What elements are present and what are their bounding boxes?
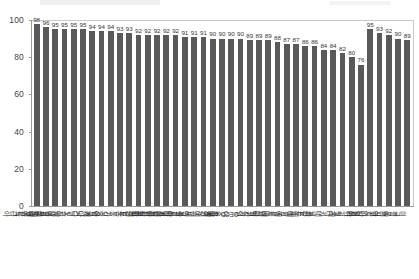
bar: 84 — [321, 50, 327, 206]
bar-value-label: 87 — [293, 37, 300, 43]
bar-column: 89 — [245, 20, 254, 206]
bar: 89 — [265, 40, 271, 206]
bar-value-label: 91 — [200, 30, 207, 36]
bar-value-label: 95 — [61, 22, 68, 28]
bar: 92 — [386, 35, 392, 206]
bar: 84 — [330, 50, 336, 206]
x-axis-label-column: 불가리아 — [116, 208, 125, 278]
bar-value-label: 92 — [144, 28, 151, 34]
x-axis-label-column: 독일 — [246, 208, 255, 278]
x-axis-category-label: OECD 평균 — [207, 210, 238, 217]
bar: 93 — [117, 33, 123, 206]
bar-column: 94 — [106, 20, 115, 206]
x-axis-label-column: 덴마크 — [265, 208, 274, 278]
bar: 88 — [275, 42, 281, 206]
x-axis-label-column: 미국 — [405, 208, 414, 278]
bar-column: 86 — [301, 20, 310, 206]
y-axis-tick-label: 100 — [9, 15, 24, 25]
bar: 87 — [293, 44, 299, 206]
bar-column: 84 — [329, 20, 338, 206]
x-axis-category-label: 네덜란드 — [299, 210, 322, 217]
bar-value-label: 98 — [33, 17, 40, 23]
bar: 76 — [358, 65, 364, 206]
bar: 93 — [126, 33, 132, 206]
bar-column: 89 — [254, 20, 263, 206]
x-axis-label-column: 일본 — [358, 208, 367, 278]
bar-value-label: 96 — [42, 20, 49, 26]
bar: 91 — [191, 37, 197, 206]
bar-column: 92 — [171, 20, 180, 206]
x-axis-label-column: 캐나다 — [88, 208, 97, 278]
bar-value-label: 92 — [154, 28, 161, 34]
bar: 94 — [108, 31, 114, 206]
bar-column: 82 — [338, 20, 347, 206]
bar-column: 95 — [51, 20, 60, 206]
bar-value-label: 88 — [274, 35, 281, 41]
bar-value-label: 95 — [80, 22, 87, 28]
x-axis-label-column: 스위스 — [79, 208, 88, 278]
bar-value-label: 94 — [98, 24, 105, 30]
y-axis-tick-label: 60 — [14, 89, 24, 99]
bar-value-label: 89 — [404, 33, 411, 39]
bar-column: 93 — [125, 20, 134, 206]
x-axis-label-column: 터키 — [330, 208, 339, 278]
bar-column: 94 — [88, 20, 97, 206]
bar-value-label: 90 — [228, 31, 235, 37]
x-axis-label-column: 포르투갈 — [283, 208, 292, 278]
bar-value-label: 95 — [367, 22, 374, 28]
x-axis-label-column: 크로아티아 — [377, 208, 386, 278]
bar-value-label: 84 — [320, 43, 327, 49]
x-axis-label-column: OECD 평균 — [237, 208, 246, 278]
bar-value-label: 93 — [376, 26, 383, 32]
bar: 87 — [284, 44, 290, 206]
y-axis-tick-mark — [29, 206, 32, 207]
bar: 98 — [34, 24, 40, 206]
x-axis-label-column: 폴란드 — [311, 208, 320, 278]
bar: 95 — [71, 29, 77, 206]
bar-value-label: 93 — [117, 26, 124, 32]
bar-column: 93 — [115, 20, 124, 206]
x-axis-label-column: 칠레 — [339, 208, 348, 278]
bar-value-label: 92 — [172, 28, 179, 34]
bar-value-label: 92 — [163, 28, 170, 34]
bar-value-label: 90 — [237, 31, 244, 37]
x-axis-label-column: 에스토니아 — [32, 208, 41, 278]
bar-column: 96 — [41, 20, 50, 206]
bar-column: 90 — [227, 20, 236, 206]
bar: 90 — [219, 39, 225, 206]
x-axis-label-column: 슬로바키아공화국 — [181, 208, 190, 278]
bar-column: 91 — [180, 20, 189, 206]
x-axis-category-label: 불가리아 — [94, 210, 117, 217]
bar: 92 — [145, 35, 151, 206]
bar-value-label: 94 — [107, 24, 114, 30]
x-axis-label-column: 룩셈부르크 — [41, 208, 50, 278]
bar: 82 — [340, 53, 346, 206]
x-axis-label-column: 프랑스 — [209, 208, 218, 278]
bar-value-label: 86 — [311, 39, 318, 45]
bar-column: 92 — [134, 20, 143, 206]
bar-column: 91 — [190, 20, 199, 206]
bar: 89 — [256, 40, 262, 206]
bar-column: 90 — [217, 20, 226, 206]
x-axis-label-column: 핀란드 — [134, 208, 143, 278]
bar-column: 87 — [291, 20, 300, 206]
bar-value-label: 89 — [246, 33, 253, 39]
bar-value-label: 95 — [70, 22, 77, 28]
bar-value-label: 93 — [126, 26, 133, 32]
bar-column: 93 — [375, 20, 384, 206]
bar: 90 — [395, 39, 401, 206]
bar-value-label: 86 — [302, 39, 309, 45]
bar-column: 94 — [97, 20, 106, 206]
x-axis-label-column: 스웨덴 — [302, 208, 311, 278]
bar-column: 89 — [403, 20, 412, 206]
bar-chart: 020406080100 989695959595949494939392929… — [0, 0, 419, 279]
bar-value-label: 76 — [357, 57, 364, 63]
x-axis-label-column: 호주 — [125, 208, 134, 278]
bar: 90 — [210, 39, 216, 206]
bar-value-label: 92 — [385, 28, 392, 34]
x-axis-category-label: 미국 — [394, 210, 406, 217]
x-axis-label-column: 노르웨이 — [69, 208, 78, 278]
bar-value-label: 84 — [330, 43, 337, 49]
bar-value-label: 89 — [256, 33, 263, 39]
bar: 92 — [136, 35, 142, 206]
